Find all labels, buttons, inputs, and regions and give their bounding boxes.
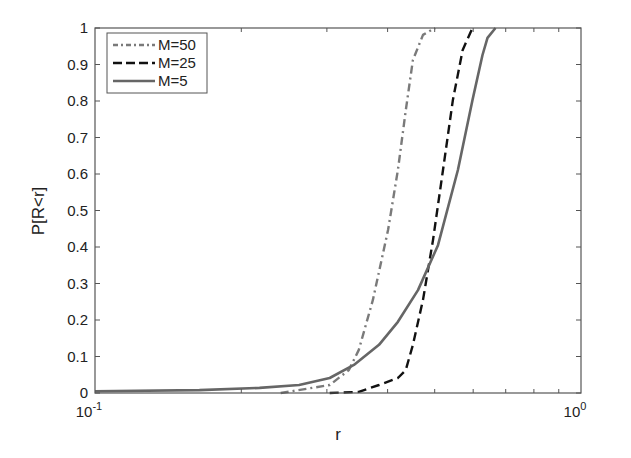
y-tick-label: 0.3: [67, 275, 88, 292]
y-tick-label: 0.9: [67, 56, 88, 73]
legend-label: M=5: [158, 72, 188, 89]
y-tick-label: 0.8: [67, 92, 88, 109]
legend: M=50M=25M=5: [107, 33, 207, 93]
cdf-chart: 00.10.20.30.40.50.60.70.80.9110-1100 M=5…: [0, 0, 631, 458]
y-tick-label: 0.7: [67, 129, 88, 146]
legend-label: M=25: [158, 54, 196, 71]
y-tick-label: 0: [80, 384, 88, 401]
legend-label: M=50: [158, 36, 196, 53]
y-tick-label: 0.4: [67, 238, 88, 255]
y-tick-label: 1: [80, 19, 88, 36]
y-tick-label: 0.1: [67, 348, 88, 365]
y-tick-label: 0.2: [67, 311, 88, 328]
y-tick-label: 0.6: [67, 165, 88, 182]
y-axis-label: P[R<r]: [29, 187, 48, 236]
y-tick-label: 0.5: [67, 202, 88, 219]
x-axis-label: r: [335, 425, 341, 444]
